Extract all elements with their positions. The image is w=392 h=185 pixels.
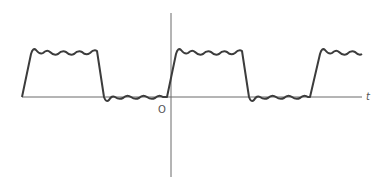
waveform-plot [0,0,392,185]
x-axis-label: t [366,91,370,102]
origin-label: O [158,104,166,115]
square-wave-curve [22,49,362,101]
diagram-canvas: O t [0,0,392,185]
